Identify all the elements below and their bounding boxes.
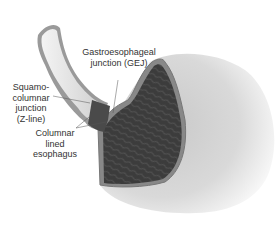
- sq-label-line3: junction: [8, 103, 54, 114]
- sq-label-line4: (Z-line): [8, 114, 54, 125]
- gej-label-line2: junction (GEJ): [78, 58, 160, 69]
- diagram-canvas: Gastroesophageal junction (GEJ) Squamo- …: [0, 0, 279, 233]
- gej-label: Gastroesophageal junction (GEJ): [78, 47, 160, 68]
- sq-label-line1: Squamo-: [8, 82, 54, 93]
- cle-label-line2: lined: [30, 139, 80, 150]
- cle-label-line3: esophagus: [30, 149, 80, 160]
- cle-label-line1: Columnar: [30, 128, 80, 139]
- columnar-lined-esophagus-label: Columnar lined esophagus: [30, 128, 80, 160]
- squamocolumnar-junction-label: Squamo- columnar junction (Z-line): [8, 82, 54, 124]
- sq-label-line2: columnar: [8, 93, 54, 104]
- gej-label-line1: Gastroesophageal: [78, 47, 160, 58]
